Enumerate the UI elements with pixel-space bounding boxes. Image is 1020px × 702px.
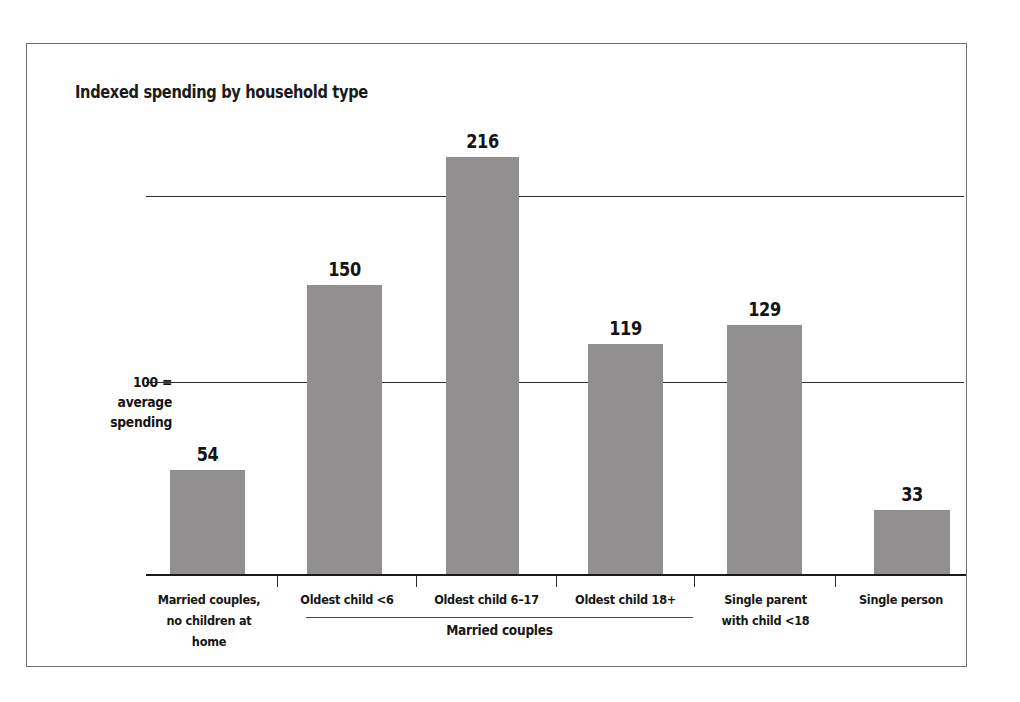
- bar-married-no-children[interactable]: [170, 470, 245, 574]
- category-label-line: Oldest child 18+: [566, 589, 685, 610]
- y-axis-caption: 100 = average spending: [60, 372, 172, 432]
- category-label-line: Oldest child <6: [287, 589, 407, 610]
- axis-tick-5: [835, 576, 836, 587]
- gridline-100: [146, 382, 964, 383]
- category-label-oldest-child-18-plus: Oldest child 18+: [557, 589, 694, 610]
- group-bracket-line: [306, 617, 693, 618]
- category-label-single-parent-child-under-18: Single parent with child <18: [696, 589, 835, 631]
- group-bracket-label-text: Married couples: [331, 622, 668, 638]
- bar-value-oldest-child-18-plus: 119: [594, 317, 658, 339]
- category-label-line: Married couples,: [149, 589, 269, 610]
- group-bracket-label: Married couples: [306, 622, 693, 638]
- y-axis-caption-line-3: spending: [73, 412, 172, 432]
- bar-value-married-no-children: 54: [176, 443, 240, 465]
- bar-oldest-child-6-17[interactable]: [446, 157, 519, 574]
- axis-tick-4: [694, 576, 695, 587]
- category-label-line: no children at home: [149, 610, 269, 652]
- category-label-line: with child <18: [705, 610, 826, 631]
- axis-tick-2: [416, 576, 417, 587]
- axis-tick-1: [277, 576, 278, 587]
- bar-value-single-parent-child-under-18: 129: [733, 298, 797, 320]
- category-label-line: Oldest child 6–17: [426, 589, 547, 610]
- plot-area: 54 150 216 119 129 33 100 = average spen…: [0, 0, 1020, 702]
- category-label-line: Single parent: [705, 589, 826, 610]
- y-axis-caption-line-1: 100 =: [73, 372, 172, 392]
- bar-value-oldest-child-6-17: 216: [451, 130, 513, 152]
- category-label-line: Single person: [844, 589, 957, 610]
- category-label-oldest-child-6-17: Oldest child 6–17: [417, 589, 556, 610]
- gridline-200: [146, 196, 964, 197]
- axis-tick-3: [556, 576, 557, 587]
- bar-value-oldest-child-under-6: 150: [313, 258, 377, 280]
- bar-oldest-child-18-plus[interactable]: [588, 344, 663, 574]
- bar-oldest-child-under-6[interactable]: [307, 285, 382, 574]
- bar-single-person[interactable]: [874, 510, 950, 574]
- y-axis-caption-line-2: average: [73, 392, 172, 412]
- category-label-oldest-child-under-6: Oldest child <6: [278, 589, 416, 610]
- bar-single-parent-child-under-18[interactable]: [727, 325, 802, 574]
- category-label-single-person: Single person: [836, 589, 966, 610]
- category-label-married-no-children: Married couples, no children at home: [140, 589, 278, 652]
- bar-value-single-person: 33: [880, 483, 945, 505]
